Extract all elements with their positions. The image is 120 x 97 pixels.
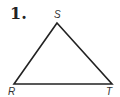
vertex-label-s: S xyxy=(54,9,61,20)
vertex-label-t: T xyxy=(106,86,113,97)
triangle-diagram: S R T xyxy=(0,0,120,97)
vertex-label-r: R xyxy=(8,86,15,97)
triangle-rst xyxy=(14,23,112,84)
